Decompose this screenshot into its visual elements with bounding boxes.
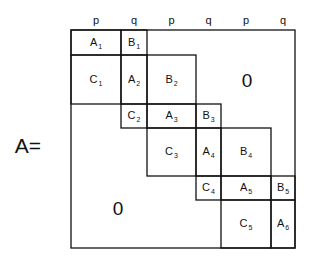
block-letter: C [202,181,210,193]
block-subscript: 5 [249,224,253,231]
block-letter: B [240,145,247,157]
column-header-q-2: q [131,15,137,26]
column-header-p-3: p [168,15,174,26]
block-letter: B [202,109,209,121]
block-subscript: 2 [136,79,140,86]
block-subscript: 1 [99,79,103,86]
block-c2: C2 [128,110,141,123]
matrix-outer-border [71,30,295,248]
block-subscript: 4 [211,152,215,159]
block-a1: A1 [90,36,102,49]
block-letter: A [240,181,247,193]
block-letter: B [128,35,135,47]
block-a4: A4 [202,146,214,159]
block-c5: C5 [240,218,253,231]
block-c1: C1 [90,73,103,86]
block-subscript: 6 [285,224,289,231]
block-letter: B [277,181,284,193]
block-letter: A [128,72,135,84]
block-a2: A2 [128,73,140,86]
column-header-q-6: q [280,15,286,26]
block-a5: A5 [240,182,252,195]
block-letter: C [240,217,248,229]
block-b5: B5 [277,182,289,195]
block-subscript: 2 [174,79,178,86]
block-letter: A [277,217,284,229]
lower-left-zero: 0 [113,199,124,218]
column-header-p-1: p [93,15,99,26]
upper-right-zero: 0 [242,71,253,90]
block-subscript: 4 [211,188,215,195]
column-header-p-5: p [243,15,249,26]
block-subscript: 5 [248,188,252,195]
block-b3: B3 [202,110,214,123]
matrix-grid-lines [0,0,311,261]
block-subscript: 1 [98,42,102,49]
block-letter: B [165,72,172,84]
block-b4: B4 [240,146,252,159]
block-subscript: 4 [248,152,252,159]
block-letter: C [165,145,173,157]
block-subscript: 2 [137,116,141,123]
block-a3: A3 [165,110,177,123]
block-letter: C [128,109,136,121]
block-b2: B2 [165,73,177,86]
block-subscript: 5 [285,188,289,195]
block-c4: C4 [202,182,215,195]
block-letter: C [90,72,98,84]
block-tridiagonal-matrix-diagram: A= pqpqpq A1B1C1A2B2C2A3B3C3A4B4C4A5B5C5… [0,0,311,261]
matrix-name-label: A= [15,135,41,156]
column-header-q-4: q [205,15,211,26]
block-letter: A [165,109,172,121]
block-subscript: 1 [136,42,140,49]
block-a6: A6 [277,218,289,231]
block-subscript: 3 [174,152,178,159]
block-letter: A [90,35,97,47]
block-subscript: 3 [211,116,215,123]
block-letter: A [202,145,209,157]
block-b1: B1 [128,36,140,49]
block-subscript: 3 [174,116,178,123]
block-c3: C3 [165,146,178,159]
